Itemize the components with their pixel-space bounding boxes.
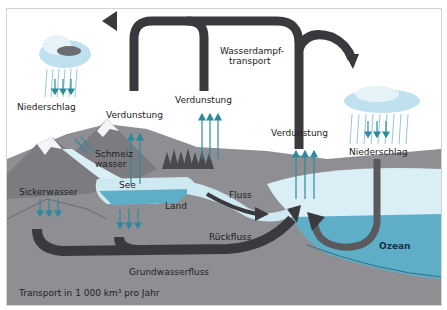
label-precipitation-left: Niederschlag (17, 102, 76, 112)
label-evaporation-lake: Verdunstung (106, 110, 163, 120)
label-river: Fluss (229, 190, 252, 200)
vapor-arrowhead-right (345, 54, 359, 69)
label-evaporation-forest: Verdunstung (175, 95, 232, 105)
label-groundwater-flow: Grundwasserfluss (129, 267, 209, 277)
footnote: Transport in 1 000 km³ pro Jahr (19, 288, 159, 298)
cloud-right (344, 86, 420, 113)
label-ocean: Ozean (379, 241, 410, 251)
label-lake: See (119, 180, 136, 190)
label-runoff: Rückfluss (209, 232, 251, 242)
label-vapor-transport-1: Wasserdampf- (220, 46, 284, 56)
label-meltwater-2: wasser (95, 159, 127, 169)
label-seepage: Sickerwasser (19, 187, 78, 197)
water-cycle-diagram: Niederschlag Verdunstung Verdunstung Ver… (6, 8, 442, 306)
label-precipitation-right: Niederschlag (349, 147, 408, 157)
cloud-left (39, 35, 91, 68)
label-evaporation-ocean: Verdunstung (271, 128, 328, 138)
label-meltwater-1: Schmeiz (95, 149, 133, 159)
label-land: Land (165, 201, 187, 211)
rain-right (350, 114, 408, 144)
vapor-arrowhead-left (102, 11, 117, 31)
label-vapor-transport-2: transport (229, 56, 271, 66)
